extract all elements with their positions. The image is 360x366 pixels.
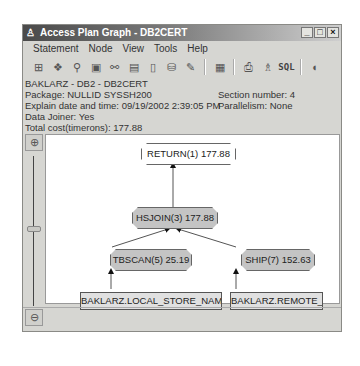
toolbar-separator [233, 59, 235, 75]
table-stats-icon[interactable]: ⛁ [162, 58, 181, 76]
zoom-control: ⊕ ⊖ [23, 134, 45, 328]
total-cost-label: Total cost(timerons): 177.88 [25, 122, 142, 133]
menu-bar: Statement Node View Tools Help [23, 42, 341, 56]
details-icon[interactable]: ▣ [86, 58, 105, 76]
network-icon[interactable]: ♗ [258, 58, 277, 76]
app-icon: ♙ [26, 27, 37, 38]
sql-button[interactable]: SQL [277, 58, 296, 76]
tree-view-icon[interactable]: ⊞ [29, 58, 48, 76]
window-icon[interactable]: ▦ [210, 58, 229, 76]
menu-statement[interactable]: Statement [28, 42, 84, 56]
access-plan-graph-window: ♙ Access Plan Graph - DB2CERT _ □ × Stat… [22, 24, 342, 332]
graph-node-hsjoin[interactable]: HSJOIN(3) 177.88 [132, 207, 218, 229]
search-node-icon[interactable]: ⚲ [67, 58, 86, 76]
status-bar [23, 307, 341, 330]
graph-node-return[interactable]: RETURN(1) 177.88 [141, 143, 236, 165]
zoom-slider-thumb[interactable] [27, 226, 41, 232]
operator-icon[interactable]: ⚯ [105, 58, 124, 76]
package-label: Package: NULLID SYSSH200 [25, 89, 152, 100]
db-objects-icon[interactable]: ▤ [124, 58, 143, 76]
maximize-button[interactable]: □ [314, 27, 326, 38]
zoom-in-button[interactable]: ⊕ [25, 134, 43, 151]
window-title: Access Plan Graph - DB2CERT [40, 25, 187, 41]
menu-help[interactable]: Help [182, 42, 213, 56]
section-number-label: Section number: 4 [218, 89, 295, 100]
explain-date-label: Explain date and time: 09/19/2002 2:39:0… [25, 100, 220, 111]
title-bar[interactable]: ♙ Access Plan Graph - DB2CERT _ □ × [23, 25, 341, 41]
settings-icon[interactable]: ✎ [181, 58, 200, 76]
statistics-icon[interactable]: ❖ [48, 58, 67, 76]
document-icon[interactable]: ▯ [143, 58, 162, 76]
toolbar-separator [204, 59, 206, 75]
statement-info-panel: BAKLARZ - DB2 - DB2CERT Package: NULLID … [23, 78, 341, 134]
close-button[interactable]: × [327, 27, 339, 38]
menu-node[interactable]: Node [84, 42, 118, 56]
minimize-button[interactable]: _ [301, 27, 313, 38]
menu-view[interactable]: View [118, 42, 150, 56]
data-joiner-label: Data Joiner: Yes [25, 111, 94, 122]
zoom-in-icon: ⊕ [30, 136, 39, 148]
menu-tools[interactable]: Tools [149, 42, 182, 56]
graph-node-ship[interactable]: SHIP(7) 152.63 [241, 249, 315, 271]
toolbar-separator [300, 59, 302, 75]
help-icon[interactable]: ◐ [306, 58, 325, 76]
toolbar: ⊞ ❖ ⚲ ▣ ⚯ ▤ ▯ ⛁ ✎ ▦ ⎙ ♗ SQL ◐ [23, 57, 341, 77]
connection-label: BAKLARZ - DB2 - DB2CERT [25, 78, 148, 89]
graph-canvas[interactable]: RETURN(1) 177.88 HSJOIN(3) 177.88 TBSCAN… [45, 134, 340, 304]
parallelism-label: Parallelism: None [218, 100, 292, 111]
print-icon[interactable]: ⎙ [239, 58, 258, 76]
graph-node-tbscan[interactable]: TBSCAN(5) 25.19 [110, 249, 192, 271]
